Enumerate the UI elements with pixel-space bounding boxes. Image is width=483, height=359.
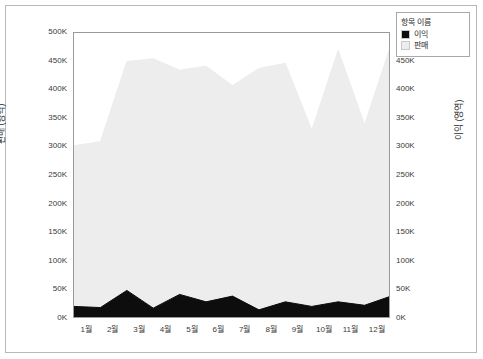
x-axis-tick-label: 1월 (74, 323, 98, 334)
legend: 항목 이름 이익판매 (396, 12, 470, 57)
legend-item-label: 판매 (414, 41, 428, 50)
legend-item[interactable]: 이익 (401, 30, 465, 39)
y-axis-left-tick-label: 300K (35, 141, 67, 150)
y-axis-right-tick-label: 0K (396, 313, 430, 322)
x-axis-tick-label: 11월 (338, 323, 362, 334)
x-axis-tick-label: 7월 (233, 323, 257, 334)
y-axis-left-tick-label: 100K (35, 256, 67, 265)
y-axis-right-tick-label: 350K (396, 113, 430, 122)
y-axis-right-tick-label: 200K (396, 199, 430, 208)
x-axis-tick-label: 2월 (101, 323, 125, 334)
series-area-판매 (74, 44, 390, 318)
y-axis-left-tick-label: 350K (35, 113, 67, 122)
y-axis-right-tick-label: 50K (396, 284, 430, 293)
x-axis-tick-label: 5월 (180, 323, 204, 334)
legend-title: 항목 이름 (401, 16, 465, 27)
y-axis-left-tick-label: 450K (35, 56, 67, 65)
y-axis-right-tick-label: 100K (396, 256, 430, 265)
legend-swatch-icon (401, 41, 410, 50)
y-axis-left-title: 판매 (영역) (0, 104, 7, 145)
x-axis-tick-label: 10월 (312, 323, 336, 334)
y-axis-left-tick-label: 0K (35, 313, 67, 322)
legend-items: 이익판매 (401, 30, 465, 50)
y-axis-left-tick-label: 400K (35, 84, 67, 93)
plot-area (73, 32, 390, 318)
x-axis-tick-label: 8월 (259, 323, 283, 334)
x-axis-tick-label: 12월 (365, 323, 389, 334)
y-axis-left-tick-label: 500K (35, 27, 67, 36)
y-axis-left-tick-label: 50K (35, 284, 67, 293)
y-axis-left-tick-label: 250K (35, 170, 67, 179)
y-axis-right-tick-label: 250K (396, 170, 430, 179)
x-axis-tick-label: 3월 (127, 323, 151, 334)
legend-item-label: 이익 (414, 30, 428, 39)
x-axis-tick-label: 6월 (206, 323, 230, 334)
legend-item[interactable]: 판매 (401, 41, 465, 50)
y-axis-left-tick-label: 200K (35, 199, 67, 208)
y-axis-right-tick-label: 300K (396, 141, 430, 150)
y-axis-right-tick-label: 400K (396, 84, 430, 93)
x-axis-tick-label: 9월 (286, 323, 310, 334)
y-axis-left-tick-label: 150K (35, 227, 67, 236)
plot-svg (74, 33, 390, 318)
legend-swatch-icon (401, 30, 410, 39)
y-axis-right-tick-label: 150K (396, 227, 430, 236)
chart-container: 판매 (영역) 이익 (영역) 500K450K400K350K300K250K… (0, 0, 483, 359)
y-axis-right-title: 이익 (영역) (452, 100, 465, 141)
x-axis-tick-label: 4월 (153, 323, 177, 334)
